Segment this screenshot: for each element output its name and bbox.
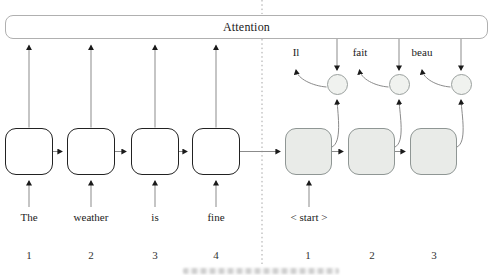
encoder-input-word-2: weather xyxy=(74,211,109,223)
attention-bar: Attention xyxy=(5,15,488,39)
decoder-cell-1 xyxy=(285,128,332,175)
encoder-input-word-1: The xyxy=(20,211,37,223)
combiner-circle-3 xyxy=(451,74,472,95)
decoder-output-word-2: fait xyxy=(353,46,368,58)
encoder-cell-1 xyxy=(5,128,53,175)
decoder-step-1: 1 xyxy=(305,249,311,261)
decoder-cell-3 xyxy=(410,128,457,175)
decoder-cell-2 xyxy=(348,128,395,175)
seq2seq-attention-figure: Attention Il fait beau The weather is fi… xyxy=(0,0,493,275)
encoder-input-word-3: is xyxy=(151,211,158,223)
encoder-cell-3 xyxy=(131,128,179,175)
encoder-cell-2 xyxy=(67,128,115,175)
combiner-circle-1 xyxy=(327,74,348,95)
clipped-caption xyxy=(183,268,339,274)
decoder-step-3: 3 xyxy=(431,249,437,261)
encoder-step-1: 1 xyxy=(26,249,32,261)
encoder-to-attention-arrows xyxy=(29,46,216,128)
encoder-step-4: 4 xyxy=(213,249,219,261)
decoder-output-word-1: Il xyxy=(293,46,300,58)
decoder-start-token: < start > xyxy=(291,211,328,223)
combiner-circle-2 xyxy=(389,74,410,95)
input-arrows xyxy=(29,181,309,207)
encoder-step-3: 3 xyxy=(152,249,158,261)
encoder-step-2: 2 xyxy=(88,249,94,261)
attention-bar-label: Attention xyxy=(223,20,270,35)
decoder-output-word-3: beau xyxy=(412,46,433,58)
circle-to-output-curves xyxy=(296,70,451,87)
encoder-input-word-4: fine xyxy=(207,211,224,223)
decoder-step-2: 2 xyxy=(369,249,375,261)
encoder-cell-4 xyxy=(192,128,240,175)
